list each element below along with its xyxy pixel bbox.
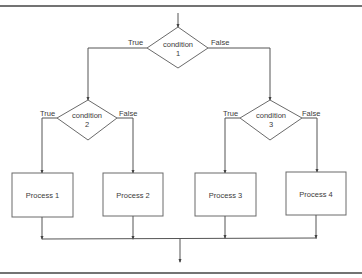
decision-condition-3: condition 3 (240, 100, 302, 140)
condition-1-false-label: False (211, 38, 229, 47)
edge-condition3-true (224, 118, 241, 174)
condition-2-false-label: False (119, 109, 137, 118)
process-3-box: Process 3 (195, 173, 256, 216)
decision-condition-1: condition 1 (147, 27, 208, 68)
process-2-box: Process 2 (103, 173, 163, 216)
condition-1-number: 1 (176, 49, 180, 58)
condition-2-label: condition (72, 111, 102, 120)
process-4-box: Process 4 (286, 172, 346, 215)
condition-3-label: condition (256, 111, 286, 120)
process-4-label: Process 4 (299, 190, 332, 199)
edge-condition2-true (41, 118, 58, 174)
edge-process2-merge (132, 216, 135, 240)
condition-3-number: 3 (269, 120, 273, 129)
edge-process3-merge (224, 216, 227, 239)
edge-condition1-true (87, 48, 148, 101)
edge-process1-merge (41, 217, 44, 240)
edge-condition1-false (208, 48, 272, 101)
exit-arrow (179, 239, 182, 263)
decision-condition-2: condition 2 (57, 100, 117, 140)
condition-2-number: 2 (85, 120, 89, 129)
process-3-label: Process 3 (209, 191, 242, 200)
entry-arrow (177, 13, 180, 28)
condition-1-label: condition (163, 40, 193, 49)
condition-3-true-label: True (223, 109, 238, 118)
process-1-box: Process 1 (12, 173, 73, 217)
edge-condition3-false (302, 118, 319, 173)
process-1-label: Process 1 (26, 191, 59, 200)
condition-2-true-label: True (40, 109, 55, 118)
flowchart-canvas: condition 1 True False condition 2 True … (0, 0, 362, 278)
condition-1-true-label: True (128, 38, 143, 47)
condition-3-false-label: False (302, 109, 320, 118)
merge-line (42, 238, 317, 239)
edge-condition2-false (117, 118, 135, 174)
process-2-label: Process 2 (116, 191, 149, 200)
edge-process4-merge (315, 215, 318, 239)
